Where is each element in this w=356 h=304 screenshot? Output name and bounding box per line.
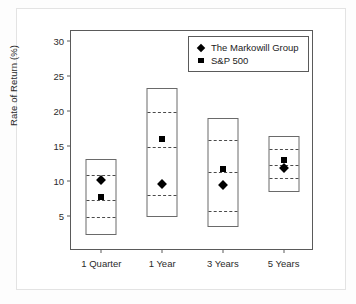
box-plot-box (207, 118, 238, 227)
y-tick-mark (67, 76, 71, 77)
box-quartile-line (87, 217, 116, 218)
y-tick-mark (67, 111, 71, 112)
data-point-square (220, 166, 226, 172)
chart-legend: The Markowill GroupS&P 500 (188, 36, 309, 72)
box-median-line (208, 172, 237, 173)
legend-item: The Markowill Group (195, 41, 299, 54)
box-quartile-line (269, 178, 298, 179)
y-tick-mark (67, 181, 71, 182)
data-point-square (98, 194, 104, 200)
box-quartile-line (148, 112, 177, 113)
data-point-square (281, 157, 287, 163)
box-plot-box (147, 88, 178, 217)
box-quartile-line (208, 211, 237, 212)
box-quartile-line (148, 195, 177, 196)
y-tick-mark (67, 41, 71, 42)
diamond-icon (195, 45, 207, 51)
x-tick-mark (283, 249, 284, 253)
box-quartile-line (208, 140, 237, 141)
box-median-line (148, 147, 177, 148)
data-point-square (159, 136, 165, 142)
x-tick-mark (101, 249, 102, 253)
x-tick-mark (222, 249, 223, 253)
y-tick-mark (67, 216, 71, 217)
box-quartile-line (269, 149, 298, 150)
box-median-line (87, 200, 116, 201)
chart-card: Rate of Return (%) 51015202530 1 Quarter… (0, 0, 356, 304)
legend-item: S&P 500 (195, 54, 299, 67)
x-tick-mark (162, 249, 163, 253)
legend-label: The Markowill Group (211, 42, 299, 53)
y-tick-mark (67, 146, 71, 147)
plot-area: 51015202530 1 Quarter1 Year3 Years5 Year… (70, 30, 313, 250)
square-icon (195, 58, 207, 64)
legend-label: S&P 500 (211, 55, 248, 66)
y-axis-label: Rate of Return (%) (8, 0, 19, 126)
y-axis-label-wrap: Rate of Return (%) (14, 30, 34, 250)
